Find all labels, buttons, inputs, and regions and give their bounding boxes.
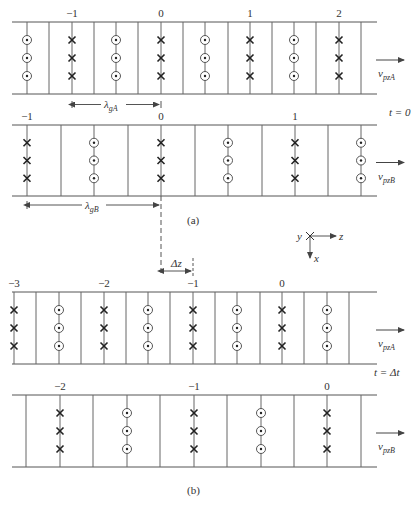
field-out-of-page-icon [90, 174, 99, 183]
position-label: −3 [8, 277, 20, 289]
field-out-of-page-icon [357, 138, 366, 147]
field-out-of-page-icon [257, 427, 266, 436]
position-label: 0 [158, 110, 164, 122]
field-out-of-page-icon [123, 409, 132, 418]
field-out-of-page-icon [112, 54, 121, 63]
field-out-of-page-icon [112, 36, 121, 45]
velocity-label: vpzA [378, 337, 395, 352]
waveguide-panel-b-guide-B: −2−10vpzB [12, 380, 404, 467]
axis-x-label: x [313, 252, 319, 264]
field-out-of-page-icon [357, 174, 366, 183]
field-out-of-page-icon [144, 324, 153, 333]
field-out-of-page-icon [55, 324, 64, 333]
position-label: 0 [324, 380, 330, 392]
field-out-of-page-icon [257, 409, 266, 418]
position-label: 1 [247, 7, 253, 19]
position-label: −1 [187, 277, 199, 289]
field-out-of-page-icon [23, 72, 32, 81]
field-out-of-page-icon [123, 427, 132, 436]
panels-group: −1012vpzA−101vpzB−3−2−10vpzA−2−10vpzB [8, 7, 404, 467]
field-out-of-page-icon [233, 324, 242, 333]
time-label-a: t = 0 [389, 106, 411, 118]
position-label: −2 [98, 277, 110, 289]
caption-b: (b) [187, 484, 200, 497]
lambda-gA-label: λgA [103, 98, 118, 113]
field-out-of-page-icon [55, 306, 64, 315]
field-out-of-page-icon [357, 156, 366, 165]
field-out-of-page-icon [90, 138, 99, 147]
position-label: 2 [336, 7, 342, 19]
velocity-label: vpzB [378, 170, 395, 185]
time-label-b: t = Δt [374, 366, 400, 378]
velocity-label: vpzA [378, 67, 395, 82]
waveguide-field-diagram: −1012vpzA−101vpzB−3−2−10vpzA−2−10vpzB λg… [0, 0, 412, 507]
field-out-of-page-icon [290, 36, 299, 45]
field-out-of-page-icon [290, 72, 299, 81]
field-out-of-page-icon [323, 342, 332, 351]
position-label: −1 [188, 380, 200, 392]
axis-y-label: y [296, 230, 302, 242]
velocity-label: vpzB [378, 440, 395, 455]
coordinate-axes: y z x [296, 230, 344, 264]
field-out-of-page-icon [55, 342, 64, 351]
field-out-of-page-icon [224, 156, 233, 165]
field-out-of-page-icon [201, 54, 210, 63]
caption-a: (a) [187, 214, 200, 227]
field-out-of-page-icon [123, 445, 132, 454]
field-out-of-page-icon [90, 156, 99, 165]
field-out-of-page-icon [290, 54, 299, 63]
field-out-of-page-icon [144, 342, 153, 351]
axis-z-label: z [338, 230, 344, 242]
field-out-of-page-icon [201, 36, 210, 45]
position-label: 0 [158, 7, 164, 19]
field-out-of-page-icon [224, 174, 233, 183]
field-out-of-page-icon [323, 324, 332, 333]
waveguide-panel-b-guide-A: −3−2−10vpzA [8, 277, 404, 364]
field-out-of-page-icon [201, 72, 210, 81]
field-out-of-page-icon [257, 445, 266, 454]
field-out-of-page-icon [23, 54, 32, 63]
lambda-gB-label: λgB [84, 199, 99, 214]
field-out-of-page-icon [224, 138, 233, 147]
position-label: −1 [21, 110, 33, 122]
waveguide-panel-a-guide-B: −101vpzB [12, 110, 404, 196]
delta-z-dimension: Δz [163, 257, 193, 276]
lambda-gB-dimension: λgB [27, 199, 159, 214]
field-out-of-page-icon [112, 72, 121, 81]
position-label: 1 [292, 110, 298, 122]
position-label: −1 [66, 7, 78, 19]
position-label: 0 [279, 277, 285, 289]
field-out-of-page-icon [233, 342, 242, 351]
field-out-of-page-icon [323, 306, 332, 315]
field-out-of-page-icon [233, 306, 242, 315]
position-label: −2 [54, 380, 66, 392]
waveguide-panel-a-guide-A: −1012vpzA [12, 7, 404, 94]
field-out-of-page-icon [23, 36, 32, 45]
delta-z-label: Δz [170, 257, 182, 269]
field-out-of-page-icon [144, 306, 153, 315]
lambda-gA-dimension: λgA [72, 98, 161, 113]
